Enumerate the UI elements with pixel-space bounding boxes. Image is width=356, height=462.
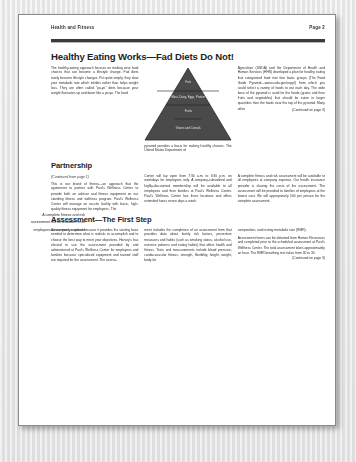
sidebar-pullquote: A complete fitness and risk assessment w… bbox=[29, 211, 85, 230]
assessment-column-3: composition, and resting metabolic rate … bbox=[238, 227, 325, 262]
top-column-2: Fats Meat, Dairy, Eggs, Protein Fruits G… bbox=[144, 65, 231, 155]
pyramid-tier-label-4: Grains and Cereals bbox=[144, 127, 232, 130]
paragraph: pyramid provides a basis for making heal… bbox=[144, 143, 231, 153]
running-header: Health and Fitness Page 2 bbox=[51, 24, 325, 38]
section-heading-partnership: Partnership bbox=[51, 161, 325, 170]
top-column-1: The healthy-eating approach focuses on m… bbox=[51, 65, 138, 155]
page-title: Healthy Eating Works—Fad Diets Do Not! bbox=[51, 51, 325, 62]
paragraph: Agriculture (USDA) and the Department of… bbox=[238, 65, 325, 111]
section-heading-assessment: Assessment—The First Step bbox=[51, 215, 325, 224]
continued-note-bottom: (Continued on page 3) bbox=[238, 255, 325, 260]
assessment-column-2: ment includes the completion of an asses… bbox=[144, 227, 231, 262]
paragraph: The healthy-eating approach focuses on m… bbox=[51, 65, 138, 96]
paragraph: ment includes the completion of an asses… bbox=[144, 227, 231, 263]
pyramid-tier-label-3: Fruits bbox=[144, 110, 232, 113]
top-article-columns: The healthy-eating approach focuses on m… bbox=[51, 65, 325, 155]
continued-note-top: (Continued on page 3) bbox=[238, 107, 325, 112]
pullquote-text: A complete fitness and risk assessment w… bbox=[29, 211, 85, 234]
page-content: Health and Fitness Page 2 Healthy Eating… bbox=[19, 15, 335, 425]
paragraph: This is our brand of fitness—an approach… bbox=[51, 181, 138, 212]
page-number: Page 2 bbox=[309, 24, 325, 30]
running-header-title: Health and Fitness bbox=[51, 24, 95, 30]
paragraph: Assessment forms can be obtained from Hu… bbox=[238, 235, 325, 256]
top-column-3: Agriculture (USDA) and the Department of… bbox=[238, 65, 325, 155]
header-rule bbox=[51, 39, 325, 42]
pyramid-tier-label-2: Meat, Dairy, Eggs, Protein bbox=[144, 96, 232, 99]
newsletter-page: Health and Fitness Page 2 Healthy Eating… bbox=[18, 14, 336, 426]
paragraph: Center will lay open from 7:30 a.m. to 6… bbox=[144, 173, 231, 204]
assessment-columns: Assessment is critical because it provid… bbox=[51, 227, 325, 262]
food-pyramid-figure: Fats Meat, Dairy, Eggs, Protein Fruits G… bbox=[144, 67, 232, 141]
paragraph: composition, and resting metabolic rate … bbox=[238, 227, 325, 232]
pyramid-tier-label-1: Fats bbox=[144, 81, 232, 84]
partnership-column-1: (Continued from page 1) This is our bran… bbox=[51, 173, 138, 210]
partnership-columns: (Continued from page 1) This is our bran… bbox=[51, 173, 325, 210]
partnership-column-2: Center will lay open from 7:30 a.m. to 6… bbox=[144, 173, 231, 210]
paragraph: A complete fitness and risk assessment w… bbox=[238, 173, 325, 204]
partnership-column-3: A complete fitness and risk assessment w… bbox=[238, 173, 325, 210]
partnership-continued-note: (Continued from page 1) bbox=[51, 174, 138, 179]
